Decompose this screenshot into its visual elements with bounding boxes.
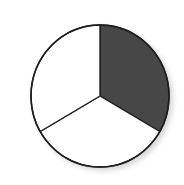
fraction-circle-diagram	[0, 0, 184, 185]
pie-svg	[0, 0, 184, 185]
